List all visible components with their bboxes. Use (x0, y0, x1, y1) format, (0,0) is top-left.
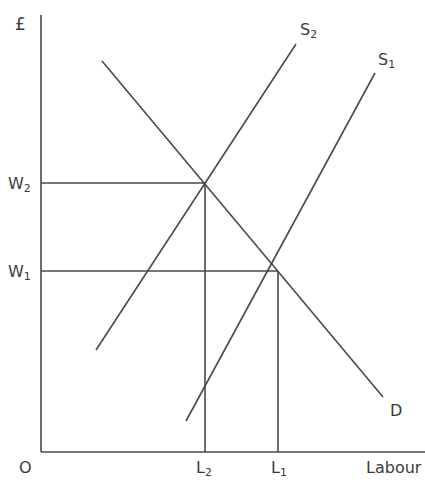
labour-label-l2: L2 (196, 460, 212, 476)
y-axis-label: £ (15, 16, 26, 32)
labour-market-diagram (0, 0, 425, 485)
demand-curve-d (102, 61, 383, 397)
curve-label-s1: S1 (378, 52, 395, 68)
labour-label-l1: L1 (271, 460, 287, 476)
origin-label: O (19, 460, 32, 476)
wage-label-w1: W1 (8, 264, 31, 280)
wage-label-w2: W2 (8, 176, 31, 192)
x-axis-label: Labour (366, 460, 421, 476)
curve-label-d: D (390, 403, 402, 419)
curve-label-s2: S2 (300, 22, 317, 38)
supply-curve-s1 (186, 73, 375, 421)
